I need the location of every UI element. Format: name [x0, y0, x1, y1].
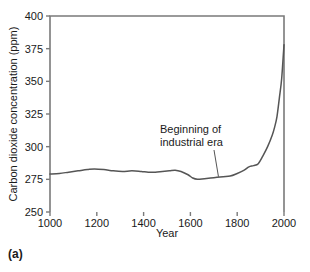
plot-frame	[50, 16, 284, 212]
annotation-line-2: industrial era	[160, 136, 224, 148]
x-tick-label: 2000	[272, 217, 296, 229]
panel-label: (a)	[8, 247, 23, 261]
x-tick-label: 1800	[225, 217, 249, 229]
annotation-leader-group	[214, 150, 218, 177]
figure-panel: 250275300325350375400 100012001400160018…	[0, 0, 310, 272]
annotation-line-1: Beginning of	[160, 123, 222, 135]
y-axis-ticks: 250275300325350375400	[25, 10, 50, 218]
annotation-leader-line	[214, 150, 218, 177]
co2-series-line	[50, 45, 284, 180]
y-tick-label: 325	[25, 108, 43, 120]
x-axis-title: Year	[156, 227, 179, 239]
y-tick-label: 400	[25, 10, 43, 22]
x-tick-label: 1400	[131, 217, 155, 229]
x-tick-label: 1200	[85, 217, 109, 229]
y-tick-label: 300	[25, 141, 43, 153]
data-series-group	[50, 45, 284, 180]
y-tick-label: 350	[25, 75, 43, 87]
y-axis-title: Carbon dioxide concentration (ppm)	[7, 27, 19, 202]
x-tick-label: 1000	[38, 217, 62, 229]
co2-line-chart: 250275300325350375400 100012001400160018…	[0, 0, 310, 272]
x-tick-label: 1600	[178, 217, 202, 229]
y-tick-label: 375	[25, 43, 43, 55]
y-tick-label: 275	[25, 173, 43, 185]
